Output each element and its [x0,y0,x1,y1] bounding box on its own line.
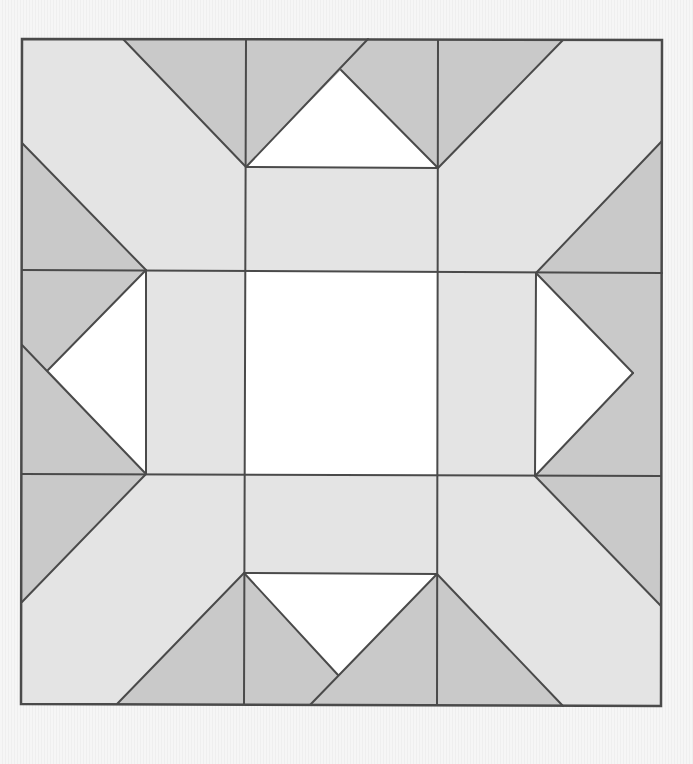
bottom-white-top-seam [244,573,437,574]
top-white-base-seam [246,167,438,168]
diagram-canvas [0,0,693,764]
right-column-edge-seam [535,273,536,476]
center-square-patch [245,271,438,475]
quilt-block [0,0,693,764]
vertical-right-inner-seam [437,40,438,705]
patch-layer [21,39,662,706]
